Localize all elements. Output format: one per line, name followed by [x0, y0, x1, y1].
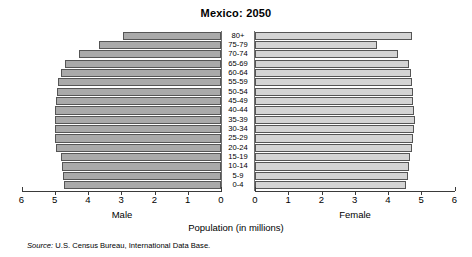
female-bar [255, 78, 412, 86]
male-bar-cell [0, 78, 221, 87]
pyramid-row: 0-4 [0, 181, 472, 190]
axis-tick [22, 187, 23, 191]
female-bar [255, 134, 413, 142]
age-group-label: 55-59 [221, 77, 255, 87]
axis-tick-label: 6 [445, 194, 465, 205]
female-bar-cell [255, 87, 455, 96]
male-bar-cell [0, 87, 221, 96]
male-bar [55, 116, 221, 124]
axis-tick-label: 5 [45, 194, 65, 205]
age-group-label: 35-39 [221, 115, 255, 125]
male-bar-cell [0, 40, 221, 49]
age-group-label: 5-9 [221, 171, 255, 181]
plot-area: 80+75-7970-7465-6960-6455-5950-5445-4940… [0, 31, 472, 191]
female-bar [255, 69, 411, 77]
axis-tick-label: 4 [78, 194, 98, 205]
age-group-label: 15-19 [221, 152, 255, 162]
female-bar [255, 181, 406, 189]
male-bar-cell [0, 124, 221, 133]
female-bar-cell [255, 50, 455, 59]
female-bar-cell [255, 181, 455, 190]
axis-tick-label: 1 [278, 194, 298, 205]
female-bar-cell [255, 78, 455, 87]
population-pyramid-figure: Mexico: 2050 80+75-7970-7465-6960-6455-5… [0, 0, 472, 257]
source-note: Source: U.S. Census Bureau, Internationa… [27, 241, 210, 250]
female-bar [255, 60, 409, 68]
male-bar [79, 50, 221, 58]
female-bar-cell [255, 59, 455, 68]
female-bar [255, 144, 412, 152]
axis-tick-label: 3 [345, 194, 365, 205]
age-group-label: 10-14 [221, 161, 255, 171]
female-axis-label: Female [315, 209, 395, 220]
age-group-label: 25-29 [221, 133, 255, 143]
male-bar-cell [0, 181, 221, 190]
axis-tick-label: 2 [145, 194, 165, 205]
male-bar [55, 134, 221, 142]
female-bar [255, 88, 413, 96]
female-bar [255, 172, 408, 180]
age-group-label: 30-34 [221, 124, 255, 134]
age-group-label: 45-49 [221, 96, 255, 106]
male-bar [63, 172, 221, 180]
male-bar [61, 153, 221, 161]
age-group-label: 20-24 [221, 143, 255, 153]
age-group-label: 65-69 [221, 59, 255, 69]
male-axis-label: Male [82, 209, 162, 220]
age-group-label: 50-54 [221, 87, 255, 97]
source-prefix: Source: [27, 241, 53, 250]
male-bar [55, 106, 221, 114]
male-bar [64, 181, 221, 189]
female-bar [255, 32, 412, 40]
male-bar-cell [0, 152, 221, 161]
female-bar-cell [255, 143, 455, 152]
age-group-label: 70-74 [221, 49, 255, 59]
female-bar-cell [255, 31, 455, 40]
female-bar [255, 97, 413, 105]
female-bar-cell [255, 40, 455, 49]
axis-tick-label: 1 [178, 194, 198, 205]
age-group-label: 40-44 [221, 105, 255, 115]
male-bar [123, 32, 221, 40]
female-bar [255, 41, 377, 49]
male-bar [65, 60, 221, 68]
male-bar-cell [0, 115, 221, 124]
female-bar [255, 153, 410, 161]
male-bar [55, 125, 221, 133]
male-bar-cell [0, 134, 221, 143]
x-axis-title: Population (in millions) [0, 222, 472, 233]
male-bar [57, 88, 221, 96]
male-bar-cell [0, 96, 221, 105]
female-bar [255, 162, 409, 170]
female-bar [255, 106, 414, 114]
age-group-label: 60-64 [221, 68, 255, 78]
source-body: U.S. Census Bureau, International Data B… [55, 241, 210, 250]
female-bar-cell [255, 115, 455, 124]
male-bar-cell [0, 59, 221, 68]
axis-tick-label: 3 [111, 194, 131, 205]
axis-tick-label: 2 [312, 194, 332, 205]
male-bar [99, 41, 221, 49]
female-bar-cell [255, 68, 455, 77]
male-bar-cell [0, 31, 221, 40]
female-bar-cell [255, 124, 455, 133]
axis-tick [221, 187, 222, 191]
age-group-label: 0-4 [221, 180, 255, 190]
male-bar [58, 78, 221, 86]
female-bar-cell [255, 106, 455, 115]
female-bar-cell [255, 171, 455, 180]
female-bar [255, 116, 415, 124]
male-bar-cell [0, 162, 221, 171]
axis-tick-label: 4 [378, 194, 398, 205]
male-bar-cell [0, 143, 221, 152]
female-bar-cell [255, 96, 455, 105]
male-bar [62, 162, 221, 170]
female-bar-cell [255, 162, 455, 171]
axis-tick-label: 5 [411, 194, 431, 205]
female-bar [255, 125, 414, 133]
axis-tick-label: 0 [245, 194, 265, 205]
age-group-label: 80+ [221, 31, 255, 41]
male-bar [56, 144, 221, 152]
female-bar-cell [255, 134, 455, 143]
axis-tick [255, 187, 256, 191]
